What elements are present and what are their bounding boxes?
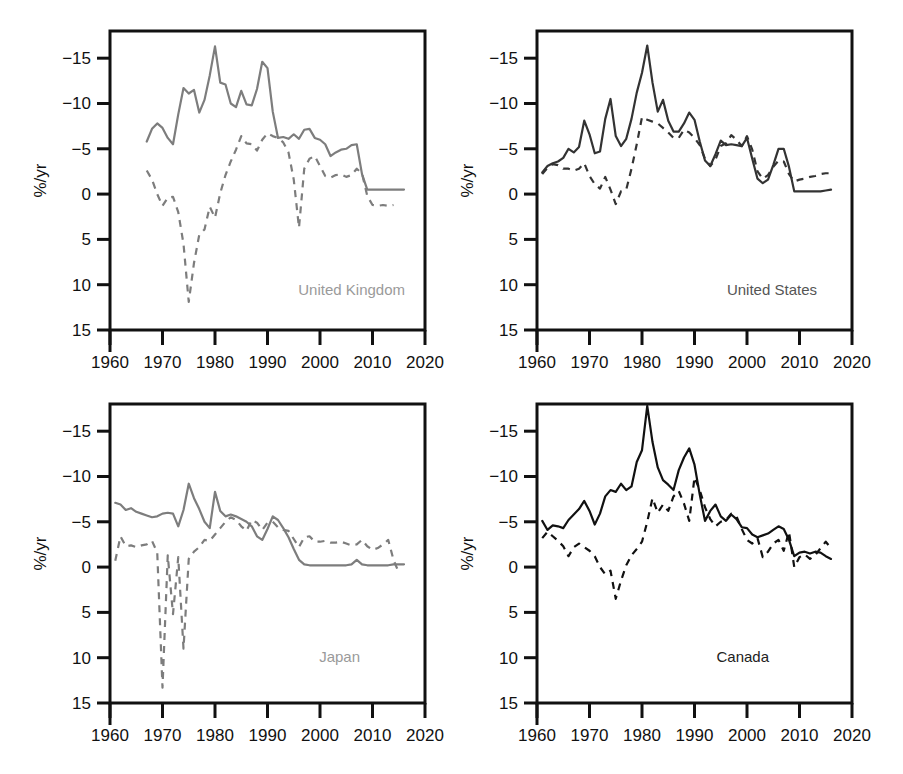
panel-label: Canada — [716, 648, 769, 665]
y-tick-label: −15 — [62, 49, 91, 68]
chart-svg: 151050−5−10−1519601970198019902000201020… — [427, 0, 879, 390]
y-tick-label: 0 — [82, 558, 91, 577]
y-tick-label: 15 — [72, 694, 91, 713]
x-tick-label: 1990 — [249, 726, 287, 745]
y-tick-label: 10 — [72, 276, 91, 295]
x-tick-label: 1960 — [91, 726, 129, 745]
x-tick-label: 1970 — [144, 353, 182, 372]
x-tick-label: 1960 — [518, 726, 556, 745]
y-tick-label: 5 — [509, 603, 518, 622]
y-tick-label: 15 — [72, 321, 91, 340]
y-tick-label: −5 — [499, 140, 518, 159]
y-tick-label: 5 — [509, 230, 518, 249]
chart-panel-japan: 151050−5−10−1519601970198019902000201020… — [0, 373, 452, 763]
y-tick-label: −10 — [62, 467, 91, 486]
x-tick-label: 1980 — [623, 726, 661, 745]
y-tick-label: −15 — [62, 422, 91, 441]
y-tick-label: −15 — [489, 49, 518, 68]
y-tick-label: 5 — [82, 230, 91, 249]
x-tick-label: 2000 — [301, 353, 339, 372]
chart-svg: 151050−5−10−1519601970198019902000201020… — [0, 0, 452, 390]
x-tick-label: 2000 — [301, 726, 339, 745]
x-tick-label: 1990 — [676, 353, 714, 372]
chart-panel-canada: 151050−5−10−1519601970198019902000201020… — [427, 373, 879, 763]
x-tick-label: 1980 — [196, 726, 234, 745]
y-tick-label: 0 — [509, 185, 518, 204]
chart-panel-united-states: 151050−5−10−1519601970198019902000201020… — [427, 0, 879, 390]
y-tick-label: 15 — [499, 321, 518, 340]
chart-svg: 151050−5−10−1519601970198019902000201020… — [427, 373, 879, 763]
y-tick-label: −5 — [499, 513, 518, 532]
series-dashed — [147, 133, 394, 302]
y-axis-title: %/yr — [458, 163, 477, 197]
x-tick-label: 1960 — [91, 353, 129, 372]
y-tick-label: −5 — [72, 513, 91, 532]
y-tick-label: 10 — [499, 649, 518, 668]
series-dashed — [542, 477, 831, 598]
x-tick-label: 1970 — [144, 726, 182, 745]
y-tick-label: −10 — [62, 94, 91, 113]
chart-svg: 151050−5−10−1519601970198019902000201020… — [0, 373, 452, 763]
panel-label: United Kingdom — [298, 281, 405, 298]
x-tick-label: 1980 — [623, 353, 661, 372]
x-tick-label: 2020 — [833, 726, 871, 745]
y-tick-label: −5 — [72, 140, 91, 159]
y-axis-title: %/yr — [31, 163, 50, 197]
x-tick-label: 2020 — [833, 353, 871, 372]
plot-frame — [537, 404, 852, 703]
y-tick-label: 5 — [82, 603, 91, 622]
y-tick-label: −15 — [489, 422, 518, 441]
panel-label: United States — [727, 281, 817, 298]
y-tick-label: −10 — [489, 94, 518, 113]
y-tick-label: 10 — [499, 276, 518, 295]
x-tick-label: 1970 — [571, 353, 609, 372]
panel-label: Japan — [319, 648, 360, 665]
series-solid — [542, 46, 831, 192]
x-tick-label: 2000 — [728, 353, 766, 372]
x-tick-label: 1970 — [571, 726, 609, 745]
y-tick-label: 15 — [499, 694, 518, 713]
x-tick-label: 2000 — [728, 726, 766, 745]
x-tick-label: 1960 — [518, 353, 556, 372]
y-axis-title: %/yr — [458, 536, 477, 570]
x-tick-label: 1980 — [196, 353, 234, 372]
y-tick-label: 0 — [509, 558, 518, 577]
y-tick-label: 0 — [82, 185, 91, 204]
series-solid — [147, 46, 404, 189]
x-tick-label: 1990 — [676, 726, 714, 745]
x-tick-label: 2010 — [781, 353, 819, 372]
y-tick-label: −10 — [489, 467, 518, 486]
x-tick-label: 2010 — [354, 726, 392, 745]
x-tick-label: 2010 — [354, 353, 392, 372]
y-axis-title: %/yr — [31, 536, 50, 570]
y-tick-label: 10 — [72, 649, 91, 668]
figure-root: 151050−5−10−1519601970198019902000201020… — [0, 0, 903, 774]
x-tick-label: 2010 — [781, 726, 819, 745]
chart-panel-united-kingdom: 151050−5−10−1519601970198019902000201020… — [0, 0, 452, 390]
x-tick-label: 1990 — [249, 353, 287, 372]
